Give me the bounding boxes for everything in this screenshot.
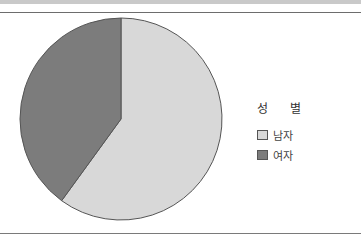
legend-swatch-male [257, 130, 268, 140]
legend-label-female: 여자 [273, 147, 293, 163]
legend-label-male: 남자 [273, 127, 293, 143]
legend-item-female: 여자 [257, 149, 293, 161]
legend-swatch-female [257, 150, 268, 160]
pie-chart [0, 0, 361, 238]
legend-item-male: 남자 [257, 129, 293, 141]
bottom-divider [0, 233, 361, 234]
legend-title: 성 별 [257, 99, 310, 116]
